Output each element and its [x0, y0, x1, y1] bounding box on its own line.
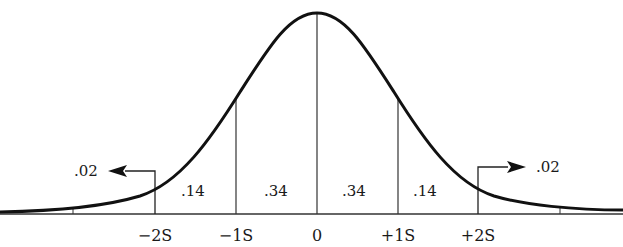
arrow-left-icon [108, 165, 127, 177]
tail-label-left: .02 [74, 162, 98, 180]
axis-label-minus-1s: −1S [219, 226, 254, 245]
axis-label-plus-2s: +2S [461, 226, 496, 245]
region-label-minus1-zero: .34 [264, 182, 288, 200]
bell-curve [0, 13, 623, 212]
axis-label-plus-1s: +1S [381, 226, 416, 245]
axis-label-minus-2s: −2S [138, 226, 173, 245]
region-label-plus1-plus2: .14 [413, 182, 437, 200]
normal-distribution-diagram: .14 .34 .34 .14 .02 .02 −2S −1S 0 +1S +2… [0, 0, 623, 247]
arrow-right-icon [507, 161, 526, 173]
axis-label-zero: 0 [312, 226, 322, 245]
region-label-minus2-minus1: .14 [181, 182, 205, 200]
tail-label-right: .02 [536, 158, 560, 176]
region-label-zero-plus1: .34 [342, 182, 366, 200]
